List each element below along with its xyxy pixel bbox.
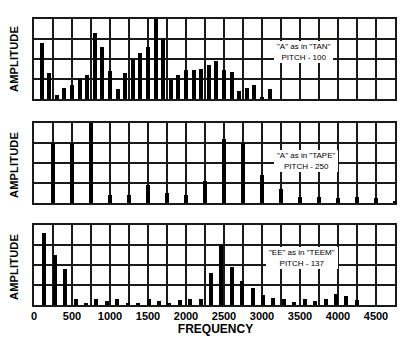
spectrum-bar <box>154 19 158 99</box>
x-tick-label: 1000 <box>98 310 122 322</box>
spectrum-bar <box>40 43 44 99</box>
spectrum-bar <box>313 301 317 305</box>
spectrum-bar <box>51 143 55 203</box>
grid-line-vertical <box>337 19 338 99</box>
spectrum-bar <box>63 269 67 305</box>
spectrum-bar <box>138 53 142 99</box>
spectrum-panel-tan: "A" as in "TAN" PITCH - 100 <box>32 17 397 101</box>
spectrum-bar <box>176 75 180 99</box>
spectrum-bar <box>374 198 378 203</box>
annotation-tape: "A" as in "TAPE" PITCH - 250 <box>274 150 338 172</box>
spectrum-bar <box>192 70 196 99</box>
spectrum-bar <box>70 143 74 203</box>
spectrum-bar <box>126 303 130 305</box>
grid-line-vertical <box>90 19 91 99</box>
spectrum-bar <box>203 181 207 203</box>
grid-line-horizontal <box>34 38 395 39</box>
x-tick-label: 1500 <box>136 310 160 322</box>
grid-line-vertical <box>375 225 376 305</box>
spectrum-bar <box>85 75 89 99</box>
spectrum-bar <box>230 267 234 305</box>
spectrum-bar <box>105 301 109 305</box>
spectrum-bar <box>222 139 226 203</box>
spectrum-bar <box>282 299 286 305</box>
x-tick-label: 2000 <box>174 310 198 322</box>
grid-line-vertical <box>128 19 129 99</box>
spectrum-bar <box>74 299 78 305</box>
spectrum-bar <box>94 299 98 305</box>
grid-line-vertical <box>356 225 357 305</box>
spectrum-bar <box>108 71 112 99</box>
grid-line-vertical <box>166 19 167 99</box>
grid-line-vertical <box>128 225 129 305</box>
spectrum-bar <box>324 299 328 305</box>
spectrum-bar <box>303 299 307 305</box>
annotation-title: "A" as in "TAPE" <box>277 150 335 161</box>
grid-line-vertical <box>185 225 186 305</box>
x-tick-label: 3000 <box>250 310 274 322</box>
grid-line-vertical <box>147 225 148 305</box>
spectrum-bar <box>84 303 88 305</box>
grid-line-horizontal <box>34 58 395 59</box>
grid-line-horizontal <box>34 264 395 265</box>
grid-line-horizontal <box>34 284 395 285</box>
annotation-tan: "A" as in "TAN" PITCH - 100 <box>274 41 333 63</box>
spectrum-bar <box>230 72 234 99</box>
spectrum-bar <box>251 288 255 305</box>
spectrum-bar <box>100 47 104 99</box>
spectrum-bar <box>167 303 171 305</box>
spectrum-bar <box>240 281 244 305</box>
grid-line-vertical <box>375 19 376 99</box>
grid-line-vertical <box>52 19 53 99</box>
grid-line-vertical <box>128 123 129 203</box>
grid-line-vertical <box>204 225 205 305</box>
grid-line-vertical <box>166 123 167 203</box>
spectrum-bar <box>268 89 272 99</box>
spectrum-bar <box>252 85 256 99</box>
spectrum-bar <box>184 70 188 99</box>
grid-line-vertical <box>109 225 110 305</box>
grid-line-vertical <box>166 225 167 305</box>
grid-line-vertical <box>185 123 186 203</box>
annotation-teem: "EE" as in "TEEM" PITCH - 137 <box>266 247 338 269</box>
spectrum-bar <box>47 73 51 99</box>
spectrum-bar <box>62 88 66 99</box>
spectrum-bar <box>207 65 211 99</box>
spectrum-bar <box>199 299 203 305</box>
x-tick-label: 4000 <box>326 310 350 322</box>
spectrum-bar <box>136 303 140 305</box>
y-axis-label-panel-3: AMPLITUDE <box>8 234 20 300</box>
spectrum-bar <box>161 39 165 99</box>
spectrum-bar <box>53 255 57 305</box>
spectrum-bar <box>184 195 188 203</box>
spectrum-panel-tape: "A" as in "TAPE" PITCH - 250 <box>32 121 397 205</box>
spectrum-bar <box>260 175 264 203</box>
spectrum-bar <box>127 195 131 203</box>
annotation-title: "EE" as in "TEEM" <box>269 247 335 258</box>
spectrum-bar <box>147 299 151 305</box>
spectrum-bar <box>279 189 283 203</box>
spectrum-bar <box>260 97 264 99</box>
spectrum-bar <box>146 185 150 203</box>
spectrum-bar <box>245 88 249 99</box>
x-axis-label: FREQUENCY <box>0 322 411 336</box>
grid-line-vertical <box>204 19 205 99</box>
spectrum-bar <box>261 295 265 305</box>
spectrum-bar <box>123 73 127 99</box>
spectrum-bar <box>241 143 245 203</box>
spectrum-bar <box>116 89 120 99</box>
grid-line-horizontal <box>34 244 395 245</box>
spectrum-bar <box>42 233 46 305</box>
grid-line-vertical <box>109 123 110 203</box>
grid-line-vertical <box>71 225 72 305</box>
spectrum-bar <box>70 85 74 99</box>
spectrum-bar <box>157 301 161 305</box>
spectrum-bar <box>393 201 397 203</box>
y-axis-label-panel-1: AMPLITUDE <box>8 26 20 92</box>
spectrum-bar <box>355 300 359 305</box>
spectrum-bar <box>188 299 192 305</box>
spectrum-bar <box>209 273 213 305</box>
spectrum-panel-teem: "EE" as in "TEEM" PITCH - 137 <box>32 223 397 307</box>
spectrum-bar <box>298 197 302 203</box>
spectrum-bar <box>344 296 348 305</box>
